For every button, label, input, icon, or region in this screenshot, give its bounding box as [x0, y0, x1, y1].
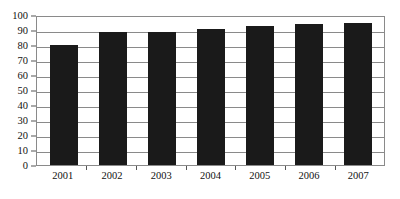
x-tick-label: 2003 — [147, 170, 175, 182]
y-tick-label: 20 — [18, 131, 29, 142]
y-tick-label: 60 — [18, 71, 29, 82]
x-tick-label: 2005 — [246, 170, 274, 182]
bar — [50, 45, 78, 165]
x-tick-label: 2006 — [295, 170, 323, 182]
bar-chart-figure: 0102030405060708090100 20012002200320042… — [0, 0, 400, 199]
y-tick-label: 40 — [18, 101, 29, 112]
y-tick-label: 0 — [23, 161, 28, 172]
plot-area — [36, 16, 385, 166]
x-tick-label: 2004 — [196, 170, 224, 182]
y-tick-label: 100 — [12, 11, 28, 22]
y-tick-label: 30 — [18, 116, 29, 127]
bar — [197, 29, 225, 166]
y-tick-label: 10 — [18, 146, 29, 157]
bar — [344, 23, 372, 166]
x-tick-label: 2007 — [344, 170, 372, 182]
bar — [99, 32, 127, 166]
y-tick-label: 90 — [18, 26, 29, 37]
bar — [246, 26, 274, 166]
x-tick-label: 2002 — [98, 170, 126, 182]
bars-group — [37, 17, 384, 165]
y-tick-label: 50 — [18, 86, 29, 97]
x-tick-label: 2001 — [49, 170, 77, 182]
bar — [148, 32, 176, 166]
y-tick-label: 70 — [18, 56, 29, 67]
y-tick-label: 80 — [18, 41, 29, 52]
bar — [295, 24, 323, 165]
y-axis: 0102030405060708090100 — [0, 0, 36, 199]
x-axis: 2001200220032004200520062007 — [36, 170, 385, 182]
